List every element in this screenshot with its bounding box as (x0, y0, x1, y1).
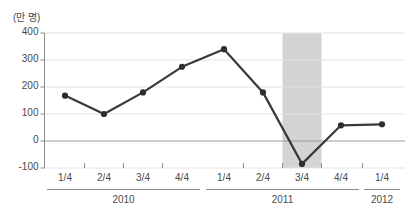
x-tick-label: 3/4 (128, 172, 158, 183)
data-point (140, 89, 146, 95)
chart-plot-area (0, 0, 417, 223)
data-point (221, 46, 227, 52)
year-group-label: 2012 (364, 194, 400, 205)
year-group-label: 2011 (206, 194, 359, 205)
y-tick-label: 200 (13, 80, 39, 91)
y-tick-label: 0 (13, 134, 39, 145)
year-group-label: 2010 (47, 194, 200, 205)
data-point (338, 122, 344, 128)
x-tick-label: 2/4 (89, 172, 119, 183)
data-point (101, 111, 107, 117)
data-point (62, 93, 68, 99)
highlight-band-group (283, 33, 322, 168)
gridlines-group (41, 33, 406, 168)
x-tick-label: 1/4 (367, 172, 397, 183)
y-tick-label: 100 (13, 107, 39, 118)
x-tick-label: 4/4 (167, 172, 197, 183)
y-tick-label: -100 (13, 161, 39, 172)
x-tick-label: 1/4 (50, 172, 80, 183)
data-point (260, 89, 266, 95)
series-markers-group (62, 46, 385, 167)
data-point (379, 121, 385, 127)
data-point (179, 64, 185, 70)
x-tick-label: 4/4 (326, 172, 356, 183)
x-tick-label: 2/4 (248, 172, 278, 183)
y-tick-label: 400 (13, 26, 39, 37)
x-tick-label: 3/4 (287, 172, 317, 183)
highlight-band (283, 33, 322, 168)
series-line (65, 49, 382, 164)
x-tick-label: 1/4 (209, 172, 239, 183)
y-tick-label: 300 (13, 53, 39, 64)
chart-container: (만 명) 4003002001000-100 1/42/43/44/41/42… (0, 0, 417, 223)
data-point (299, 161, 305, 167)
